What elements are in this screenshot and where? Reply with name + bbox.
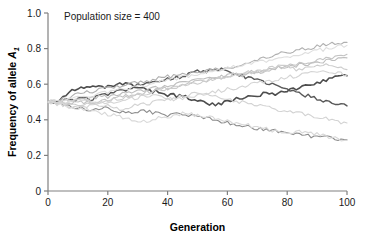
series-line-replicate-1-highlight [48,75,347,106]
y-tick-label: 0.4 [27,114,41,125]
axes: 00.20.40.60.81.0020406080100 [27,8,356,208]
data-series-group [48,42,347,141]
x-axis-title: Generation [170,221,225,233]
genetic-drift-line-chart: 00.20.40.60.81.0020406080100 Population … [0,0,370,237]
x-tick-label: 20 [102,197,114,208]
x-tick-label: 80 [282,197,294,208]
x-tick-label: 100 [339,197,356,208]
population-size-annotation: Population size = 400 [64,11,160,22]
x-tick-label: 0 [45,197,51,208]
y-tick-label: 0.2 [27,150,41,161]
y-tick-label: 0 [35,186,41,197]
y-tick-label: 1.0 [27,8,41,19]
y-tick-label: 0.6 [27,79,41,90]
series-line-replicate-3 [48,102,347,140]
y-tick-label: 0.8 [27,43,41,54]
chart-figure: 00.20.40.60.81.0020406080100 Population … [0,0,370,237]
x-tick-label: 40 [162,197,174,208]
y-axis-title: Frequency of allele A1 [6,47,21,157]
x-tick-label: 60 [222,197,234,208]
